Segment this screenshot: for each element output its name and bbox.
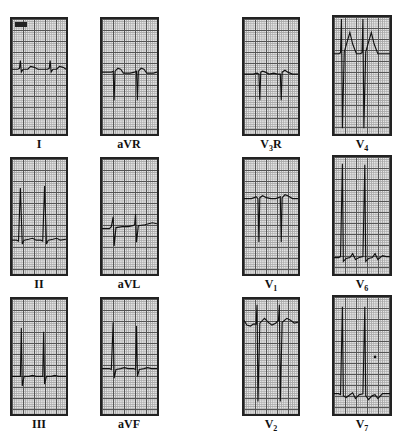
lead-label-V7: V7 (327, 417, 397, 433)
ecg-strip-lead-V1 (242, 157, 300, 276)
ecg-trace-aVF (102, 299, 157, 414)
lead-label-V6: V6 (327, 277, 397, 293)
ecg-trace-II (12, 159, 66, 274)
ecg-trace-V2 (244, 299, 298, 414)
ecg-strip-lead-V2 (242, 297, 300, 416)
ecg-trace-V3R (244, 19, 298, 134)
ecg-strip-lead-V4 (332, 15, 392, 136)
ecg-strip-lead-V3R (242, 17, 300, 136)
ecg-trace-aVL (102, 159, 157, 274)
lead-label-V2: V2 (236, 417, 306, 433)
ecg-strip-lead-aVF (100, 297, 159, 416)
ecg-trace-I (12, 19, 66, 134)
ecg-strip-lead-III (10, 297, 68, 416)
lead-label-aVF: aVF (94, 417, 164, 432)
lead-label-V1: V1 (236, 277, 306, 293)
ecg-strip-lead-V6 (332, 155, 392, 276)
ecg-trace-V4 (334, 17, 390, 134)
lead-label-aVL: aVL (94, 277, 164, 292)
lead-label-V3R: V3R (236, 137, 306, 153)
ecg-trace-aVR (102, 19, 157, 134)
ecg-strip-lead-II (10, 157, 68, 276)
ecg-trace-V6 (334, 157, 390, 274)
ecg-trace-V7 (334, 297, 390, 414)
ecg-trace-V1 (244, 159, 298, 274)
ecg-strip-lead-aVR (100, 17, 159, 136)
lead-label-II: II (4, 277, 74, 292)
ecg-trace-III (12, 299, 66, 414)
ecg-strip-lead-V7 (332, 295, 392, 416)
lead-label-aVR: aVR (94, 137, 164, 152)
ecg-strip-lead-aVL (100, 157, 159, 276)
lead-label-I: I (4, 137, 74, 152)
ecg-strip-lead-I (10, 17, 68, 136)
lead-label-III: III (4, 417, 74, 432)
lead-label-V4: V4 (327, 137, 397, 153)
